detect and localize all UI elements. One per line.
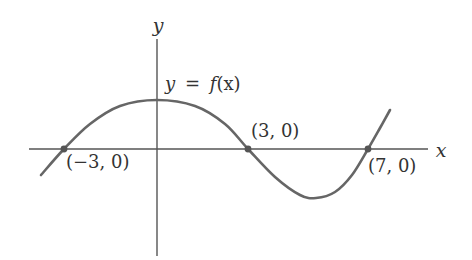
fn-label-arg: (x) [216, 73, 240, 94]
x-axis-label: x [436, 139, 447, 161]
function-graph: y x y = f(x) (−3, 0) (3, 0) (7, 0) [0, 0, 472, 260]
fn-label-equals: = [185, 73, 200, 94]
intercept-dot [365, 146, 372, 153]
point-label-3: (3, 0) [251, 120, 299, 141]
fn-label-y: y [164, 73, 176, 94]
y-axis-label: y [152, 14, 164, 36]
point-label-7: (7, 0) [368, 155, 416, 176]
point-label-neg3: (−3, 0) [66, 151, 129, 172]
intercept-dot [245, 146, 252, 153]
function-label: y = f(x) [164, 73, 241, 94]
